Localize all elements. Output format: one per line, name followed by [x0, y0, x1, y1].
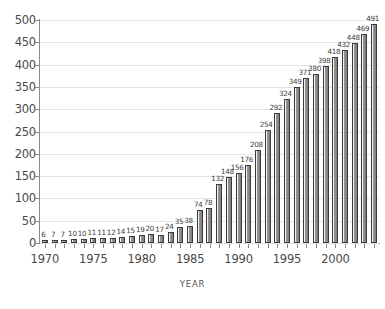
x-tick-mark — [345, 244, 346, 248]
y-tick-label: 250 — [15, 125, 36, 139]
x-tick-mark — [258, 244, 259, 248]
bar-value-label: 14 — [117, 227, 126, 236]
x-tick-mark — [93, 244, 94, 248]
bar — [52, 240, 58, 243]
bar-value-label: 12 — [107, 228, 116, 237]
y-tick-label: 150 — [15, 169, 36, 183]
bar — [90, 238, 96, 243]
bar-value-label: 380 — [308, 64, 321, 73]
bar — [313, 74, 319, 243]
bar — [177, 227, 183, 243]
bar — [61, 240, 67, 243]
x-tick-mark — [45, 244, 46, 248]
bar — [119, 237, 125, 243]
bar-value-label: 19 — [136, 225, 145, 234]
bar — [197, 210, 203, 243]
bar-value-label: 7 — [51, 230, 55, 239]
bar-value-label: 38 — [184, 216, 193, 225]
x-tick-mark — [316, 244, 317, 248]
x-tick-mark — [161, 244, 162, 248]
x-tick-mark — [180, 244, 181, 248]
bar-value-label: 10 — [78, 229, 87, 238]
x-tick-mark — [64, 244, 65, 248]
y-tick-label: 100 — [15, 191, 36, 205]
y-tick-label: 200 — [15, 147, 36, 161]
bar — [274, 113, 280, 243]
bar-value-label: 7 — [61, 230, 65, 239]
bar — [168, 232, 174, 243]
x-tick-mark — [122, 244, 123, 248]
y-tick-label: 50 — [22, 214, 36, 228]
y-tick-label: 400 — [15, 58, 36, 72]
bar — [303, 78, 309, 243]
x-tick-mark — [355, 244, 356, 248]
x-tick-mark — [103, 244, 104, 248]
x-tick-mark — [297, 244, 298, 248]
bar — [148, 234, 154, 243]
bar-value-label: 74 — [194, 200, 203, 209]
x-tick-mark — [335, 244, 336, 248]
x-tick-mark — [287, 244, 288, 248]
x-tick-mark — [268, 244, 269, 248]
bar — [206, 208, 212, 243]
x-tick-mark — [239, 244, 240, 248]
bar-value-label: 491 — [366, 14, 379, 23]
bar — [352, 43, 358, 243]
bar-value-label: 398 — [318, 56, 331, 65]
bar-value-label: 254 — [260, 120, 273, 129]
bar-value-label: 35 — [175, 217, 184, 226]
x-tick-label: 1990 — [224, 252, 252, 266]
bar — [236, 173, 242, 243]
x-tick-label: 2000 — [321, 252, 349, 266]
bar-value-label: 448 — [347, 33, 360, 42]
x-tick-mark — [84, 244, 85, 248]
bar-value-label: 349 — [289, 77, 302, 86]
bar — [323, 66, 329, 244]
bar-value-label: 11 — [87, 228, 96, 237]
bar — [129, 236, 135, 243]
bar — [361, 34, 367, 243]
bar — [294, 87, 300, 243]
bar — [255, 150, 261, 243]
bar-value-label: 15 — [126, 226, 135, 235]
x-tick-mark — [210, 244, 211, 248]
x-tick-mark — [229, 244, 230, 248]
bar-chart: 050100150200250300350400450500 677101011… — [0, 0, 385, 309]
bar — [139, 235, 145, 243]
bar-value-label: 20 — [146, 224, 155, 233]
x-tick-label: 1975 — [79, 252, 107, 266]
x-tick-mark — [55, 244, 56, 248]
gridline — [40, 42, 379, 43]
plot-area: 6771010111112141519201724353874781321481… — [40, 20, 379, 243]
x-tick-mark — [374, 244, 375, 248]
bar-value-label: 11 — [97, 228, 106, 237]
bar-value-label: 324 — [279, 89, 292, 98]
bar — [245, 165, 251, 243]
bar — [110, 238, 116, 243]
bar — [81, 239, 87, 243]
bar-value-label: 6 — [41, 230, 45, 239]
bar — [226, 177, 232, 243]
x-tick-mark — [364, 244, 365, 248]
bar — [158, 235, 164, 243]
bar — [100, 238, 106, 243]
bar — [42, 240, 48, 243]
x-tick-label: 1995 — [273, 252, 301, 266]
x-tick-mark — [248, 244, 249, 248]
x-tick-mark — [277, 244, 278, 248]
bar — [265, 130, 271, 243]
bar — [216, 184, 222, 243]
bar — [332, 57, 338, 243]
bar — [284, 99, 290, 244]
x-tick-mark — [151, 244, 152, 248]
y-tick-label: 450 — [15, 35, 36, 49]
bar-value-label: 469 — [357, 24, 370, 33]
bar — [71, 239, 77, 243]
y-tick-label: 500 — [15, 13, 36, 27]
x-tick-label: 1980 — [127, 252, 155, 266]
bar-value-label: 176 — [240, 155, 253, 164]
x-tick-mark — [326, 244, 327, 248]
bar-value-label: 17 — [155, 225, 164, 234]
x-tick-mark — [132, 244, 133, 248]
bar — [187, 226, 193, 243]
